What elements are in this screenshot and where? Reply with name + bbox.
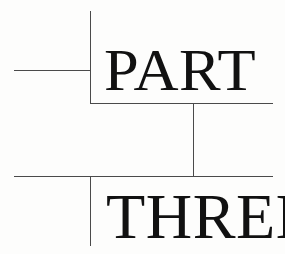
horizontal-rule-middle <box>90 103 273 104</box>
vertical-rule-middle <box>193 103 194 177</box>
horizontal-rule-upper-left <box>14 70 91 71</box>
part-divider-page: PART THREE <box>0 0 285 254</box>
vertical-rule-bottom <box>90 176 91 246</box>
part-number-label: THREE <box>106 186 285 249</box>
part-label: PART <box>104 40 256 100</box>
horizontal-rule-lower <box>14 176 273 177</box>
vertical-rule-top <box>90 11 91 104</box>
